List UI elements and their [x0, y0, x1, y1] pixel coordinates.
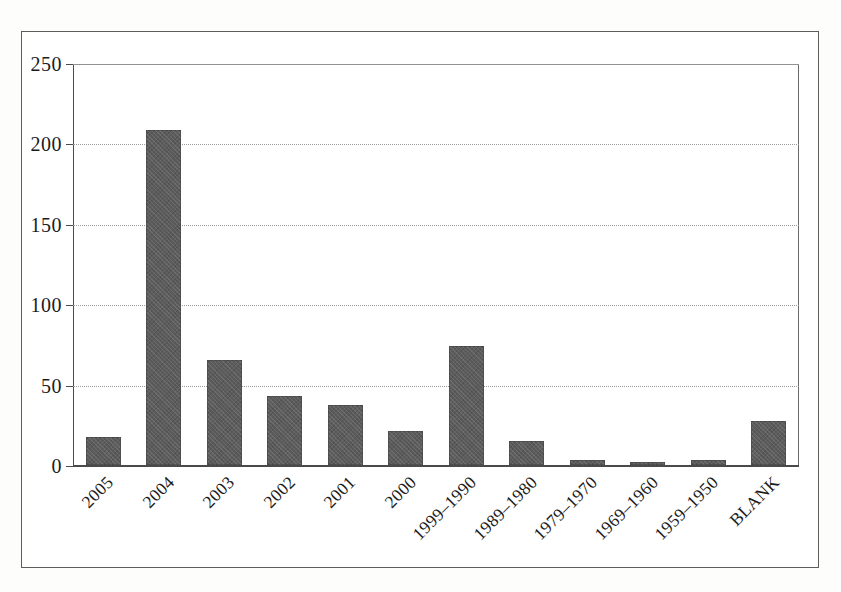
bar — [146, 130, 181, 464]
y-axis-line — [73, 64, 74, 466]
figure-page: 050100150200250 200520042003200220012000… — [0, 0, 841, 592]
gridline-100 — [73, 305, 799, 306]
y-tick-mark-150 — [66, 225, 73, 226]
bar — [570, 460, 605, 465]
y-tick-label: 50 — [41, 374, 62, 397]
y-tick-label: 100 — [31, 294, 63, 317]
gridline-200 — [73, 144, 799, 145]
y-tick-mark-100 — [66, 305, 73, 306]
bar — [86, 437, 121, 464]
bar — [388, 431, 423, 465]
bar — [328, 405, 363, 464]
x-tick-label-group: 2005200420032002200120001999–19901989–19… — [73, 466, 799, 566]
y-tick-mark-250 — [66, 64, 73, 65]
y-tick-mark-0 — [66, 466, 73, 467]
bar — [267, 396, 302, 465]
bar — [207, 360, 242, 465]
bar — [751, 421, 786, 464]
gridline-50 — [73, 386, 799, 387]
y-tick-label: 150 — [31, 213, 63, 236]
bar — [449, 346, 484, 465]
plot-area: 050100150200250 — [73, 64, 799, 466]
y-tick-label: 0 — [52, 455, 63, 478]
figure-frame: 050100150200250 200520042003200220012000… — [21, 31, 819, 568]
bar — [691, 460, 726, 465]
gridline-250 — [73, 64, 799, 65]
bar — [630, 462, 665, 464]
bar — [509, 441, 544, 465]
y-tick-label: 200 — [31, 133, 63, 156]
y-tick-label: 250 — [31, 53, 63, 76]
plot-border-right — [798, 64, 799, 466]
y-tick-mark-50 — [66, 386, 73, 387]
y-tick-mark-200 — [66, 144, 73, 145]
gridline-150 — [73, 225, 799, 226]
